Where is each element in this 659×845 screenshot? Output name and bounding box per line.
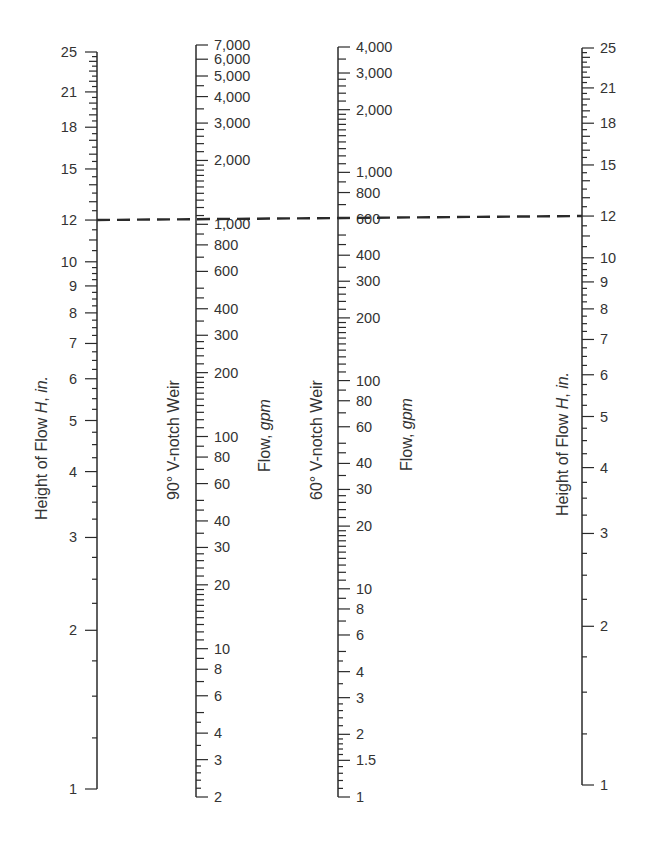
nomograph: 2521181512109876543217,0006,0005,0004,00… [0, 0, 659, 845]
tick-label: 21 [61, 84, 77, 100]
axis90-title: 90° V-notch Weir [165, 379, 182, 500]
tick-label: 400 [356, 247, 380, 263]
tick-label: 7 [600, 331, 608, 347]
tick-label: 15 [600, 157, 616, 173]
axis60-title: 60° V-notch Weir [308, 379, 325, 500]
tick-label: 20 [356, 518, 372, 534]
tick-label: 8 [356, 601, 364, 617]
isopleth-dashed-line [97, 216, 582, 220]
tick-label: 1 [69, 781, 77, 797]
tick-label: 40 [356, 455, 372, 471]
tick-label: 4 [214, 725, 222, 741]
axis-height-left: 252118151210987654321 [61, 44, 97, 797]
tick-label: 6 [69, 371, 77, 387]
tick-label: 60 [356, 419, 372, 435]
tick-label: 3 [600, 525, 608, 541]
tick-label: 800 [214, 237, 238, 253]
tick-label: 2 [69, 622, 77, 638]
tick-label: 6 [214, 688, 222, 704]
tick-label: 30 [356, 481, 372, 497]
tick-label: 25 [61, 44, 77, 60]
tick-label: 80 [214, 449, 230, 465]
tick-label: 4 [356, 664, 364, 680]
tick-label: 8 [69, 305, 77, 321]
tick-label: 100 [214, 429, 238, 445]
tick-label: 1 [356, 789, 364, 805]
tick-label: 10 [356, 581, 372, 597]
tick-label: 4 [69, 464, 77, 480]
tick-label: 200 [356, 310, 380, 326]
tick-label: 2 [600, 618, 608, 634]
axis60-unit: Flow, gpm [398, 398, 415, 471]
tick-label: 400 [214, 301, 238, 317]
tick-label: 3 [356, 690, 364, 706]
tick-label: 40 [214, 513, 230, 529]
tick-label: 15 [61, 161, 77, 177]
tick-label: 4,000 [356, 39, 392, 55]
tick-label: 18 [600, 115, 616, 131]
tick-label: 5 [600, 409, 608, 425]
tick-label: 4 [600, 460, 608, 476]
tick-label: 3 [214, 752, 222, 768]
tick-label: 30 [214, 539, 230, 555]
tick-label: 6 [600, 367, 608, 383]
tick-label: 60 [214, 476, 230, 492]
tick-label: 8 [600, 301, 608, 317]
axes-layer: 2521181512109876543217,0006,0005,0004,00… [61, 37, 616, 805]
axis-height-right: 252118151210987654321 [582, 40, 616, 793]
tick-label: 21 [600, 80, 616, 96]
tick-label: 100 [356, 373, 380, 389]
tick-label: 20 [214, 577, 230, 593]
tick-label: 300 [356, 273, 380, 289]
tick-label: 2 [356, 726, 364, 742]
tick-label: 80 [356, 393, 372, 409]
tick-label: 2,000 [356, 102, 392, 118]
tick-label: 12 [61, 212, 77, 228]
tick-label: 7 [69, 335, 77, 351]
tick-label: 3 [69, 529, 77, 545]
tick-label: 9 [600, 274, 608, 290]
tick-label: 200 [214, 365, 238, 381]
tick-label: 10 [61, 254, 77, 270]
tick-label: 10 [214, 641, 230, 657]
tick-label: 1,000 [356, 164, 392, 180]
tick-label: 6,000 [214, 51, 250, 67]
tick-label: 25 [600, 40, 616, 56]
left-axis-title: Height of Flow H, in. [33, 376, 50, 520]
tick-label: 6 [356, 627, 364, 643]
tick-label: 8 [214, 661, 222, 677]
axis-flow-60: 4,0003,0002,0001,00080060040030020010080… [338, 39, 392, 805]
axis-flow-90: 7,0006,0005,0004,0003,0002,0001,00080060… [196, 37, 250, 805]
tick-label: 4,000 [214, 89, 250, 105]
tick-label: 5,000 [214, 68, 250, 84]
tick-label: 800 [356, 185, 380, 201]
tick-label: 1.5 [356, 752, 376, 768]
tick-label: 3,000 [356, 65, 392, 81]
tick-label: 5 [69, 413, 77, 429]
tick-label: 9 [69, 278, 77, 294]
tick-label: 1 [600, 777, 608, 793]
tick-label: 300 [214, 327, 238, 343]
tick-label: 600 [214, 263, 238, 279]
tick-label: 10 [600, 250, 616, 266]
tick-label: 3,000 [214, 115, 250, 131]
tick-label: 12 [600, 208, 616, 224]
right-axis-title: Height of Flow H, in. [554, 372, 571, 516]
axis90-unit: Flow, gpm [256, 399, 273, 472]
tick-label: 18 [61, 119, 77, 135]
tick-label: 2 [214, 789, 222, 805]
tick-label: 2,000 [214, 152, 250, 168]
